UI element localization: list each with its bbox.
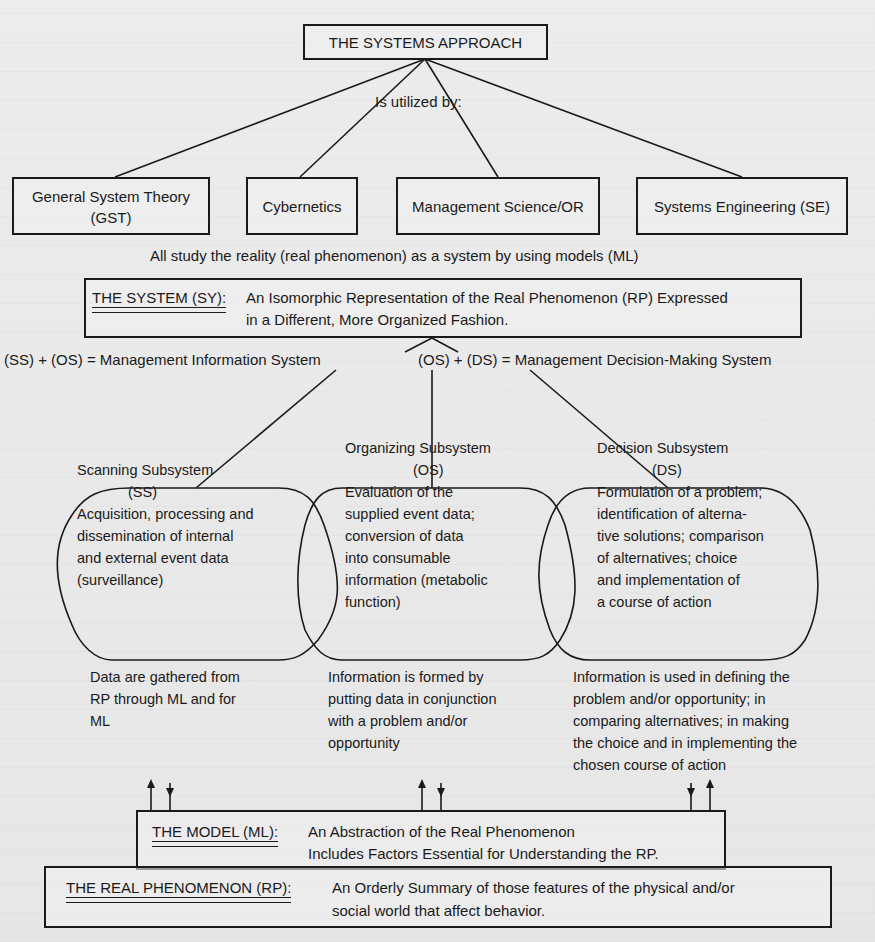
decision-subsystem-name: Decision Subsystem: [597, 438, 728, 460]
decision-subsystem-desc: identification of alterna-: [597, 504, 747, 526]
organizing-subsystem-desc: information (metabolic: [345, 570, 488, 592]
note-line: Information is used in defining the: [573, 667, 790, 689]
organizing-subsystem-desc: conversion of data: [345, 526, 464, 548]
organizing-subsystem-desc: supplied event data;: [345, 504, 475, 526]
discipline-systems-engineering-label: Systems Engineering (SE): [638, 197, 846, 216]
note-line: chosen course of action: [573, 755, 726, 777]
utilized-by-label: Is utilized by:: [375, 92, 462, 111]
discipline-cybernetics-label: Cybernetics: [248, 197, 356, 216]
model-heading-text: THE MODEL (ML):: [152, 822, 278, 841]
note-line: problem and/or opportunity; in: [573, 689, 766, 711]
model-heading: THE MODEL (ML):: [152, 822, 278, 841]
systems-approach-title: THE SYSTEMS APPROACH: [305, 33, 546, 52]
real-phenomenon-box: THE REAL PHENOMENON (RP): An Orderly Sum…: [44, 866, 832, 928]
model-box: THE MODEL (ML): An Abstraction of the Re…: [136, 810, 726, 870]
decision-subsystem-desc: a course of action: [597, 592, 711, 614]
decision-subsystem-desc: of alternatives; choice: [597, 548, 737, 570]
system-definition-line1: An Isomorphic Representation of the Real…: [246, 288, 728, 307]
mis-equation: (SS) + (OS) = Management Information Sys…: [4, 350, 321, 369]
organizing-subsystem-name: Organizing Subsystem: [345, 438, 491, 460]
all-study-caption: All study the reality (real phenomenon) …: [150, 246, 639, 265]
organizing-subsystem-desc: function): [345, 592, 401, 614]
note-line: opportunity: [328, 733, 400, 755]
organizing-subsystem-abbr: (OS): [413, 460, 444, 482]
decision-subsystem-desc: Formulation of a problem;: [597, 482, 762, 504]
discipline-gst-line1: General System Theory: [14, 187, 208, 206]
real-phenomenon-heading-text: THE REAL PHENOMENON (RP):: [66, 878, 291, 897]
scanning-subsystem-desc: Acquisition, processing and: [77, 504, 254, 526]
note-line: the choice and in implementing the: [573, 733, 797, 755]
system-heading: THE SYSTEM (SY):: [92, 288, 226, 307]
scanning-subsystem-name: Scanning Subsystem: [77, 460, 213, 482]
decision-subsystem-desc: tive solutions; comparison: [597, 526, 764, 548]
system-definition-line2: in a Different, More Organized Fashion.: [246, 310, 508, 329]
model-definition-line1: An Abstraction of the Real Phenomenon: [308, 822, 575, 841]
note-line: Information is formed by: [328, 667, 484, 689]
discipline-gst-line2: (GST): [14, 208, 208, 227]
note-line: with a problem and/or: [328, 711, 467, 733]
system-box: THE SYSTEM (SY): An Isomorphic Represent…: [84, 278, 802, 338]
discipline-gst: General System Theory (GST): [12, 177, 210, 235]
note-line: comparing alternatives; in making: [573, 711, 789, 733]
discipline-cybernetics: Cybernetics: [246, 177, 358, 235]
real-phenomenon-heading: THE REAL PHENOMENON (RP):: [66, 878, 291, 897]
systems-approach-box: THE SYSTEMS APPROACH: [303, 24, 548, 60]
decision-subsystem-abbr: (DS): [652, 460, 682, 482]
scanning-subsystem-desc: (surveillance): [77, 570, 163, 592]
scanning-subsystem-desc: dissemination of internal: [77, 526, 233, 548]
organizing-subsystem-desc: into consumable: [345, 548, 451, 570]
note-line: Data are gathered from: [90, 667, 240, 689]
note-line: putting data in conjunction: [328, 689, 497, 711]
discipline-management-science-label: Management Science/OR: [398, 197, 598, 216]
decision-subsystem-desc: and implementation of: [597, 570, 740, 592]
scanning-subsystem-desc: and external event data: [77, 548, 229, 570]
real-phenomenon-definition-line1: An Orderly Summary of those features of …: [332, 878, 735, 897]
note-line: ML: [90, 711, 110, 733]
discipline-systems-engineering: Systems Engineering (SE): [636, 177, 848, 235]
mdms-equation: (OS) + (DS) = Management Decision-Making…: [418, 350, 771, 369]
note-line: RP through ML and for: [90, 689, 236, 711]
organizing-subsystem-desc: Evaluation of the: [345, 482, 453, 504]
system-heading-text: THE SYSTEM (SY):: [92, 288, 226, 307]
discipline-management-science: Management Science/OR: [396, 177, 600, 235]
scanning-subsystem-abbr: (SS): [128, 482, 157, 504]
real-phenomenon-definition-line2: social world that affect behavior.: [332, 901, 545, 920]
model-definition-line2: Includes Factors Essential for Understan…: [308, 844, 659, 863]
